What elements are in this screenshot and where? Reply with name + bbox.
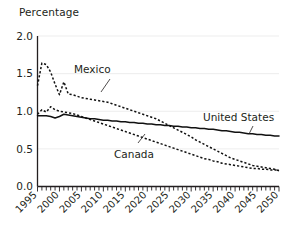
x-tick-label: 2030 bbox=[167, 189, 193, 215]
y-tick-label: 0.5 bbox=[16, 143, 33, 155]
y-tick-label: 2.0 bbox=[16, 30, 33, 42]
series-label-canada: Canada bbox=[114, 148, 154, 160]
mexico-leader-line bbox=[101, 79, 110, 92]
line-chart-plot: 0.00.51.01.52.0 199520002005201020152020… bbox=[0, 0, 292, 232]
x-tick-label: 2045 bbox=[233, 189, 259, 215]
gridlines-group bbox=[38, 36, 280, 149]
x-tick-label: 2005 bbox=[57, 189, 83, 215]
chart-figure: Percentage 0.00.51.01.52.0 1995200020052… bbox=[0, 0, 292, 232]
x-tick-label: 2050 bbox=[255, 189, 281, 215]
y-tick-label: 1.0 bbox=[16, 105, 33, 117]
x-tick-label: 2020 bbox=[123, 189, 149, 215]
series-label-mexico: Mexico bbox=[74, 63, 111, 75]
x-tick-label: 2035 bbox=[189, 189, 215, 215]
series-label-united-states: United States bbox=[203, 111, 274, 123]
y-tick-label: 1.5 bbox=[16, 67, 33, 79]
united-states-leader-line bbox=[249, 126, 253, 134]
x-tick-label: 1995 bbox=[13, 189, 39, 215]
x-tick-label: 2025 bbox=[145, 189, 171, 215]
x-tick-labels-group: 1995200020052010201520202025203020352040… bbox=[13, 189, 280, 215]
x-tick-label: 2000 bbox=[35, 189, 61, 215]
x-tick-label: 2040 bbox=[211, 189, 237, 215]
canada-leader-line bbox=[138, 134, 145, 143]
y-tick-labels-group: 0.00.51.01.52.0 bbox=[16, 30, 33, 193]
x-tick-label: 2010 bbox=[79, 189, 105, 215]
x-tick-label: 2015 bbox=[101, 189, 127, 215]
